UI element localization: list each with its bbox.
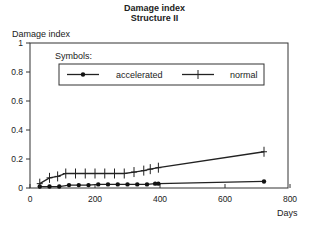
data-point-accelerated [125,182,129,186]
data-point-accelerated [67,183,71,187]
series-line-accelerated [40,181,264,186]
x-tick-label: 400 [153,194,167,204]
chart-plot: 00.20.40.60.810200400600800Symbols:accel… [0,0,309,231]
x-tick-label: 800 [283,194,297,204]
legend-title: Symbols: [55,51,92,61]
data-point-accelerated [262,179,266,183]
x-tick-label: 0 [28,194,33,204]
data-point-accelerated [135,182,139,186]
legend-label-accelerated: accelerated [116,70,163,80]
data-point-accelerated [156,181,160,185]
data-point-accelerated [145,182,149,186]
plot-frame [30,43,288,188]
x-tick-label: 200 [88,194,102,204]
data-point-accelerated [57,184,61,188]
data-point-accelerated [47,184,51,188]
y-tick-label: 0.2 [11,154,23,164]
y-tick-label: 0 [18,183,23,193]
dot-marker-icon [81,72,85,76]
y-tick-label: 1 [18,38,23,48]
y-tick-label: 0.6 [11,96,23,106]
y-tick-label: 0.8 [11,67,23,77]
data-point-accelerated [106,182,110,186]
data-point-accelerated [77,183,81,187]
data-point-accelerated [96,182,100,186]
series-line-normal [40,152,264,184]
legend-label-normal: normal [230,70,258,80]
x-tick-label: 600 [218,194,232,204]
y-tick-label: 0.4 [11,125,23,135]
data-point-accelerated [86,183,90,187]
data-point-accelerated [116,182,120,186]
